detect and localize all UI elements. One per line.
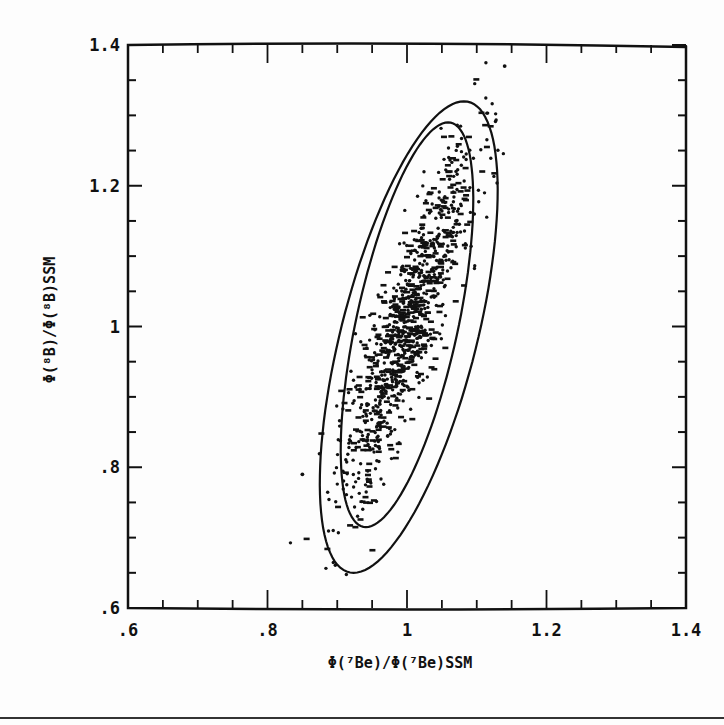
y-tick-labels: .6.811.21.4 xyxy=(89,35,120,618)
y-tick-label: 1.4 xyxy=(89,35,120,55)
y-tick-label: 1 xyxy=(110,317,120,337)
y-axis-label: Φ(⁸B)/Φ(⁸B)SSM xyxy=(41,257,59,383)
y-tick-label: .6 xyxy=(100,598,120,618)
y-tick-label: 1.2 xyxy=(89,176,120,196)
x-tick-label: .6 xyxy=(118,620,138,640)
x-tick-label: 1 xyxy=(402,620,412,640)
contour-ellipse xyxy=(341,122,474,527)
y-tick-label: .8 xyxy=(100,457,120,477)
x-tick-label: 1.4 xyxy=(671,620,702,640)
x-tick-labels: .6.811.21.4 xyxy=(118,620,702,640)
x-tick-label: .8 xyxy=(257,620,277,640)
x-axis-label: Φ(⁷Be)/Φ(⁷Be)SSM xyxy=(328,654,473,672)
x-tick-label: 1.2 xyxy=(531,620,562,640)
page-rule xyxy=(0,717,724,719)
scatter-chart: .6.811.21.4 .6.811.21.4 Φ(⁷Be)/Φ(⁷Be)SSM… xyxy=(0,0,724,725)
